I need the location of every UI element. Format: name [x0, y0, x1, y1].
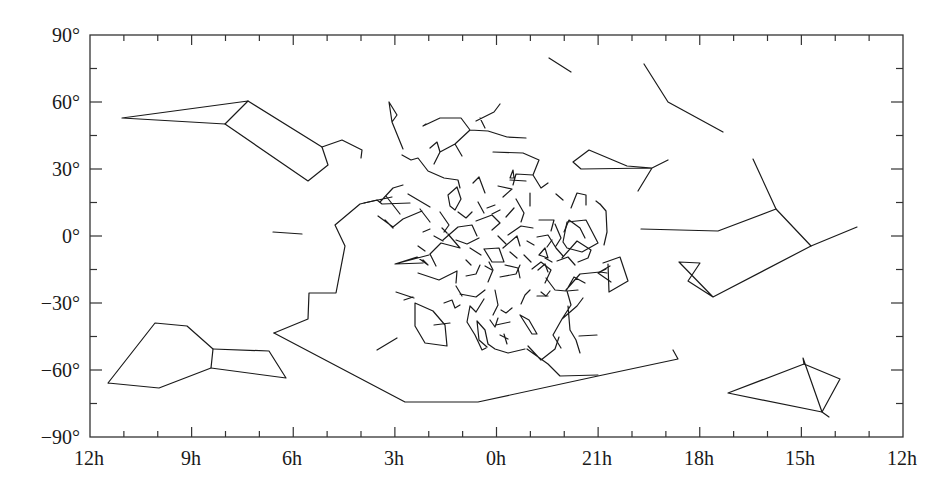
central-constellation-cluster — [364, 102, 668, 376]
plot-frame — [90, 35, 903, 437]
x-label-21h: 21h — [582, 447, 612, 469]
x-label-12h-right: 12h — [887, 447, 917, 469]
y-label-minus30: −30° — [41, 292, 80, 314]
constellation-right-pentagon — [641, 209, 811, 297]
constellation-chart: 90° 60° 30° 0° −30° −60° −90° 12h 9h 6h … — [0, 0, 947, 494]
x-label-3h: 3h — [384, 447, 404, 469]
y-label-0: 0° — [62, 225, 80, 247]
constellation-upper-left-body — [225, 101, 328, 181]
axis-ticks — [90, 35, 903, 437]
x-label-6h: 6h — [282, 447, 302, 469]
x-label-15h: 15h — [785, 447, 815, 469]
constellation-top-right-arm — [644, 64, 723, 132]
y-label-90: 90° — [52, 24, 80, 46]
constellation-mid-left-dash — [377, 338, 397, 350]
constellation-upper-left-kite — [122, 101, 248, 124]
constellation-big-southern-boundary — [274, 200, 410, 333]
constellation-upper-left-tail — [322, 140, 362, 158]
constellation-right-tail — [811, 227, 857, 246]
constellation-right-upper-arc — [753, 159, 776, 209]
y-label-minus90: −90° — [41, 426, 80, 448]
y-label-60: 60° — [52, 91, 80, 113]
constellation-lower-left-quad — [211, 349, 286, 378]
constellation-lower-left-hexagon — [108, 323, 213, 388]
constellation-lower-right-quad — [728, 364, 840, 412]
x-label-0h: 0h — [486, 447, 506, 469]
constellation-lower-right-spurs — [803, 358, 829, 417]
y-label-30: 30° — [52, 158, 80, 180]
x-label-12h-left: 12h — [74, 447, 104, 469]
constellation-southern-sweep — [274, 333, 678, 402]
x-label-9h: 9h — [181, 447, 201, 469]
y-label-minus60: −60° — [41, 359, 80, 381]
constellation-top-mid-stick — [549, 58, 571, 72]
y-axis-labels: 90° 60° 30° 0° −30° −60° −90° — [41, 24, 80, 448]
constellation-left-dash-1 — [273, 232, 302, 234]
x-label-18h: 18h — [684, 447, 714, 469]
x-axis-labels: 12h 9h 6h 3h 0h 21h 18h 15h 12h — [74, 447, 917, 469]
constellation-lines — [108, 58, 857, 417]
